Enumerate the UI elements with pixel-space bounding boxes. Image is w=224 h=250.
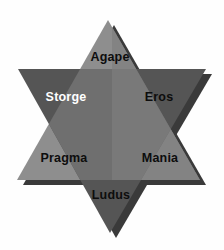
hexagram-figure: Agape Storge Eros Pragma Mania Ludus — [0, 0, 224, 250]
hexagram-graphic — [0, 0, 224, 250]
